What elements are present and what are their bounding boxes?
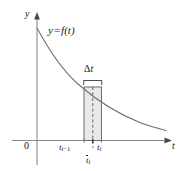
tick-label-subscript: i−1	[62, 145, 71, 152]
tick-label-t-i: ti	[97, 143, 101, 153]
tick-label-subscript: i	[100, 145, 102, 152]
function-label-expression: f(t)	[61, 24, 74, 36]
delta-variable: t	[90, 63, 93, 74]
midpoint-label-t-bar-i: ti	[86, 156, 90, 166]
tick-label-t-i-minus-1: ti−1	[59, 143, 70, 153]
midpoint-label-base: t	[86, 155, 89, 165]
y-axis-arrow-icon	[34, 12, 40, 20]
delta-t-label: Δt	[84, 64, 93, 74]
t-axis-arrow-icon	[165, 138, 173, 144]
origin-label: 0	[24, 141, 29, 151]
overbar-icon	[86, 155, 88, 156]
midpoint-label-base-wrap: t	[86, 156, 89, 165]
function-label: y=f(t)	[48, 25, 75, 36]
t-axis-label: t	[172, 141, 175, 151]
y-axis-label: y	[25, 9, 29, 19]
function-label-equals: =	[53, 24, 61, 36]
riemann-rectangle-figure: y t 0 y=f(t) Δt ti−1 ti ti	[0, 0, 192, 171]
